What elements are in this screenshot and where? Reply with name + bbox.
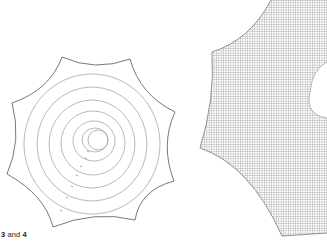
spiral-rings <box>24 74 160 214</box>
grid-fill <box>190 0 327 246</box>
web-outline <box>7 57 175 227</box>
figure-caption: 3 and 4 <box>1 230 27 239</box>
caption-num-b: 4 <box>22 230 26 239</box>
figure-3-spiral-web <box>0 0 200 246</box>
caption-joiner: and <box>5 230 22 239</box>
figure-4-grid-web <box>190 0 327 246</box>
spiral-ticks <box>60 151 89 211</box>
